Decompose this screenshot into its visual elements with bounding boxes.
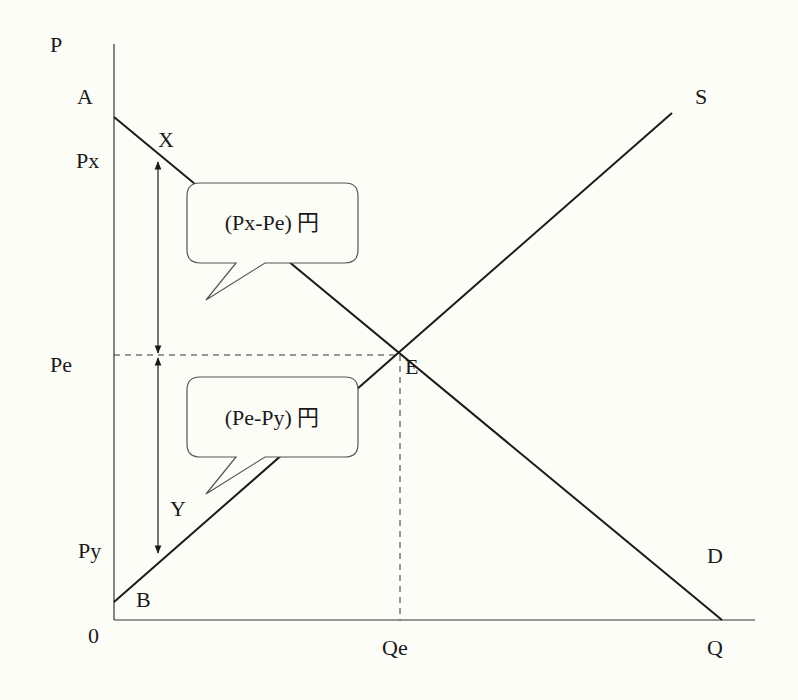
label-e: E — [405, 354, 418, 379]
label-py: Py — [78, 538, 101, 563]
origin-label: 0 — [88, 623, 99, 648]
label-px: Px — [76, 148, 99, 173]
label-s: S — [695, 84, 707, 109]
callout-px-pe-text: (Px-Pe) 円 — [225, 210, 320, 235]
label-b: B — [136, 587, 151, 612]
label-y: Y — [170, 496, 186, 521]
supply-demand-diagram: (Px-Pe) 円 (Pe-Py) 円 P A X Px Pe E Y Py B… — [0, 0, 798, 700]
label-qe: Qe — [382, 635, 408, 660]
y-axis-label: P — [50, 32, 62, 57]
label-pe: Pe — [50, 352, 72, 377]
label-d: D — [707, 543, 723, 568]
callout-px-pe: (Px-Pe) 円 — [187, 183, 358, 300]
label-a: A — [77, 84, 93, 109]
x-axis-label: Q — [707, 635, 723, 660]
callout-pe-py: (Pe-Py) 円 — [187, 377, 358, 494]
callout-pe-py-text: (Pe-Py) 円 — [225, 405, 320, 430]
label-x: X — [158, 127, 174, 152]
